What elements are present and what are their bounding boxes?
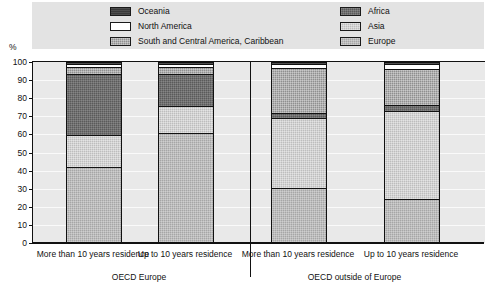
- bar-segment-europe[interactable]: [272, 188, 326, 242]
- group-label-1: OECD Europe: [112, 272, 166, 282]
- legend-swatch-oceania-icon: [110, 7, 131, 16]
- legend-column-right: AfricaAsiaEurope: [340, 5, 395, 48]
- x-axis-line: [32, 242, 484, 244]
- y-tick-label: 0: [22, 238, 27, 248]
- bar-segment-southamerica[interactable]: [159, 67, 213, 74]
- x-axis-label-3: More than 10 years residence: [242, 249, 354, 259]
- bar-2[interactable]: [158, 62, 214, 243]
- y-tick-mark: [29, 171, 33, 172]
- legend-item-europe[interactable]: Europe: [340, 35, 395, 48]
- y-tick-label: 20: [18, 202, 27, 212]
- legend-item-oceania[interactable]: Oceania: [110, 5, 284, 18]
- legend-item-southamerica[interactable]: South and Central America, Caribbean: [110, 35, 284, 48]
- legend-label-asia: Asia: [368, 22, 385, 31]
- y-tick-label: 70: [18, 111, 27, 121]
- chart-legend: OceaniaNorth AmericaSouth and Central Am…: [32, 2, 484, 49]
- y-tick-mark: [29, 189, 33, 190]
- y-tick-mark: [29, 225, 33, 226]
- legend-swatch-asia-icon: [340, 22, 361, 31]
- group-separator: [250, 61, 251, 277]
- bar-segment-southamerica[interactable]: [67, 67, 121, 74]
- chart-page: OceaniaNorth AmericaSouth and Central Am…: [0, 0, 486, 295]
- bar-segment-europe[interactable]: [385, 199, 439, 242]
- y-tick-mark: [29, 98, 33, 99]
- x-axis-label-1: More than 10 years residence: [37, 249, 149, 259]
- legend-swatch-africa-icon: [340, 7, 361, 16]
- x-axis-label-2: Up to 10 years residence: [138, 249, 233, 259]
- y-tick-label: 60: [18, 129, 27, 139]
- legend-item-northamerica[interactable]: North America: [110, 20, 284, 33]
- bar-4[interactable]: [384, 62, 440, 243]
- legend-swatch-europe-icon: [340, 37, 361, 46]
- y-tick-label: 90: [18, 75, 27, 85]
- plot-inner: 1009080706050403020100: [33, 62, 485, 243]
- y-tick-label: 80: [18, 93, 27, 103]
- y-tick-label: 10: [18, 220, 27, 230]
- legend-label-northamerica: North America: [138, 22, 192, 31]
- legend-swatch-southamerica-icon: [110, 37, 131, 46]
- y-tick-mark: [29, 116, 33, 117]
- bar-segment-southamerica[interactable]: [272, 68, 326, 113]
- y-tick-label: 30: [18, 184, 27, 194]
- bar-segment-asia[interactable]: [385, 111, 439, 199]
- y-tick-label: 100: [13, 57, 27, 67]
- bar-segment-europe[interactable]: [67, 167, 121, 242]
- legend-item-africa[interactable]: Africa: [340, 5, 395, 18]
- bar-segment-europe[interactable]: [159, 133, 213, 242]
- legend-label-europe: Europe: [368, 37, 395, 46]
- bar-segment-southamerica[interactable]: [385, 69, 439, 105]
- y-tick-mark: [29, 80, 33, 81]
- y-tick-mark: [29, 134, 33, 135]
- bar-segment-africa[interactable]: [159, 74, 213, 106]
- y-tick-label: 40: [18, 166, 27, 176]
- legend-swatch-northamerica-icon: [110, 22, 131, 31]
- legend-label-africa: Africa: [368, 7, 390, 16]
- y-axis-unit-label: %: [9, 42, 17, 52]
- y-tick-label: 50: [18, 148, 27, 158]
- y-tick-mark: [29, 153, 33, 154]
- legend-column-left: OceaniaNorth AmericaSouth and Central Am…: [110, 5, 284, 48]
- x-axis-label-4: Up to 10 years residence: [364, 249, 459, 259]
- bar-segment-asia[interactable]: [67, 135, 121, 167]
- legend-item-asia[interactable]: Asia: [340, 20, 395, 33]
- legend-label-southamerica: South and Central America, Caribbean: [138, 37, 284, 46]
- bar-segment-africa[interactable]: [67, 74, 121, 135]
- bar-segment-asia[interactable]: [159, 106, 213, 133]
- y-tick-mark: [29, 62, 33, 63]
- legend-label-oceania: Oceania: [138, 7, 170, 16]
- group-label-2: OECD outside of Europe: [308, 272, 402, 282]
- bar-3[interactable]: [271, 62, 327, 243]
- y-tick-mark: [29, 207, 33, 208]
- bar-1[interactable]: [66, 62, 122, 243]
- bar-segment-asia[interactable]: [272, 118, 326, 188]
- plot-area: 1009080706050403020100: [32, 61, 485, 243]
